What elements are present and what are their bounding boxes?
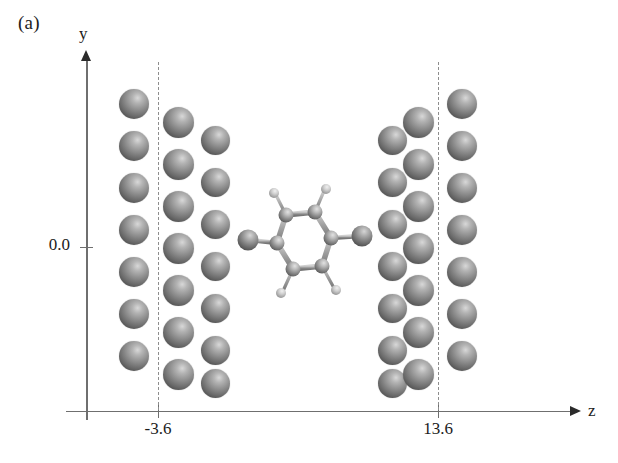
dashed-boundary-left bbox=[158, 62, 159, 410]
electrode-atom bbox=[163, 191, 194, 222]
y-axis-arrow-icon bbox=[81, 50, 91, 61]
y-tick-label-0: 0.0 bbox=[10, 235, 70, 255]
electrode-atom bbox=[447, 131, 477, 161]
electrode-atom bbox=[163, 275, 194, 306]
electrode-atom bbox=[163, 233, 194, 264]
electrode-atom bbox=[119, 131, 149, 161]
electrode-atom bbox=[447, 173, 477, 203]
panel-label: (a) bbox=[18, 12, 40, 34]
molecular-junction-figure: (a) y 0.0 z -3.6 13.6 bbox=[0, 0, 618, 463]
z-axis-label: z bbox=[588, 401, 596, 421]
z-tick-label-right: 13.6 bbox=[423, 419, 453, 439]
electrode-atom bbox=[447, 299, 477, 329]
electrode-atom bbox=[447, 257, 477, 287]
electrode-atom bbox=[201, 336, 230, 365]
electrode-atom bbox=[163, 107, 194, 138]
electrode-atom bbox=[403, 359, 434, 390]
y-axis-label: y bbox=[79, 24, 88, 44]
electrode-atom bbox=[403, 149, 434, 180]
z-axis-origin-tick bbox=[86, 405, 87, 418]
electrode-atom bbox=[378, 168, 407, 197]
electrode-atom bbox=[403, 275, 434, 306]
electrode-atom bbox=[163, 359, 194, 390]
electrode-atom bbox=[201, 369, 230, 398]
y-axis-line bbox=[86, 60, 88, 420]
electrode-atom bbox=[163, 317, 194, 348]
electrode-atom bbox=[378, 252, 407, 281]
electrode-atom bbox=[201, 168, 230, 197]
electrode-atom bbox=[403, 317, 434, 348]
electrode-atom bbox=[378, 210, 407, 239]
electrode-atom bbox=[378, 126, 407, 155]
electrode-atom bbox=[119, 257, 149, 287]
electrode-atom bbox=[378, 294, 407, 323]
y-tick-mark bbox=[80, 247, 93, 248]
electrode-atom bbox=[447, 89, 477, 119]
electrode-atom bbox=[163, 149, 194, 180]
z-tick-label-left: -3.6 bbox=[145, 419, 172, 439]
electrode-atom bbox=[403, 233, 434, 264]
carbon-sulfur-bonds bbox=[250, 236, 360, 243]
dashed-boundary-right bbox=[438, 62, 439, 410]
electrode-atom bbox=[119, 89, 149, 119]
electrode-atom bbox=[119, 215, 149, 245]
electrode-atom bbox=[447, 215, 477, 245]
electrode-atom bbox=[201, 210, 230, 239]
electrode-atom bbox=[119, 341, 149, 371]
electrode-atom bbox=[403, 107, 434, 138]
electrode-atom bbox=[201, 252, 230, 281]
electrode-atom bbox=[201, 126, 230, 155]
sulfur-atoms bbox=[238, 226, 373, 251]
z-axis-arrow-icon bbox=[570, 406, 581, 416]
electrode-atom bbox=[447, 341, 477, 371]
electrode-atom bbox=[119, 299, 149, 329]
electrode-atom bbox=[403, 191, 434, 222]
z-axis-line bbox=[66, 411, 578, 412]
molecule-benzenedithiol bbox=[230, 180, 380, 305]
electrode-atom bbox=[119, 173, 149, 203]
electrode-atom bbox=[201, 294, 230, 323]
electrode-atom bbox=[378, 336, 407, 365]
